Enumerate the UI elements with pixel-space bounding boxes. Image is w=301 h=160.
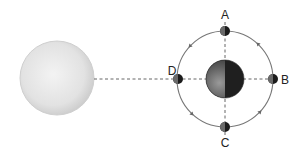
sun-earth-moon-diagram: A B C D — [0, 0, 301, 160]
moon-position-b — [268, 74, 278, 84]
label-a: A — [221, 8, 229, 22]
sun — [20, 41, 94, 115]
label-b: B — [281, 73, 289, 87]
label-c: C — [221, 136, 230, 150]
moon-position-c — [220, 122, 230, 132]
moon-position-a — [220, 26, 230, 36]
label-d: D — [168, 64, 177, 78]
earth — [206, 60, 244, 98]
